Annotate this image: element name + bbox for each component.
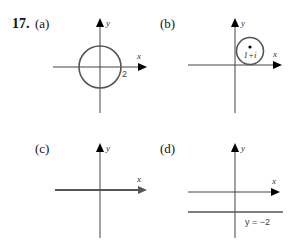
panel-c: (c) y x — [35, 141, 147, 238]
x-axis-arrow-icon — [271, 188, 280, 196]
x-axis-arrow-icon — [138, 186, 147, 194]
x-axis-arrow-icon — [273, 61, 282, 69]
center-label: 1+i — [243, 50, 257, 60]
line-label: y = −2 — [245, 217, 270, 227]
x-axis-label: x — [272, 49, 277, 59]
y-axis-label: y — [240, 18, 245, 28]
panel-b-label: (b) — [160, 16, 175, 31]
panel-b: (b) y x 1+i — [160, 16, 282, 113]
radius-label: 2 — [122, 69, 127, 79]
panel-d-label: (d) — [160, 141, 175, 156]
panel-a: (a) y x 2 — [35, 16, 147, 113]
panel-c-label: (c) — [35, 141, 49, 156]
y-axis-arrow-icon — [231, 18, 239, 27]
panel-d: (d) y x y = −2 — [160, 141, 283, 238]
y-axis-label: y — [105, 143, 110, 153]
figure-17: 17. (a) y x 2 (b) y x 1+i (c) y — [0, 0, 299, 246]
problem-number: 17. — [12, 16, 30, 31]
panel-a-label: (a) — [35, 16, 49, 31]
y-axis-arrow-icon — [231, 143, 239, 152]
y-axis-arrow-icon — [96, 143, 104, 152]
center-point — [248, 45, 251, 48]
y-axis-label: y — [105, 18, 110, 28]
x-axis-arrow-icon — [138, 63, 147, 71]
y-axis-arrow-icon — [96, 18, 104, 27]
x-axis-label: x — [136, 51, 141, 61]
x-axis-label: x — [136, 174, 141, 184]
x-axis-label: x — [271, 176, 276, 186]
y-axis-label: y — [240, 143, 245, 153]
